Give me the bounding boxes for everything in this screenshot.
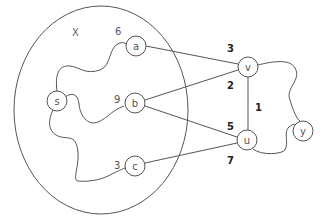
node-y: y xyxy=(293,121,313,141)
edge-a-v xyxy=(146,46,238,64)
path-s-a xyxy=(56,43,126,92)
node-b-label: b xyxy=(132,98,138,109)
edge-c-u xyxy=(145,143,237,163)
node-b: b xyxy=(125,93,145,113)
set-x-boundary xyxy=(14,6,188,214)
graph-diagram: a s b c v u y X 6 9 3 3 2 5 7 1 xyxy=(0,0,326,222)
weight-c-u: 7 xyxy=(227,155,234,166)
weight-s-b: 9 xyxy=(114,94,120,105)
node-s: s xyxy=(47,91,67,111)
weight-a-v: 3 xyxy=(227,43,234,54)
node-v-label: v xyxy=(245,62,251,73)
weight-v-u: 1 xyxy=(255,102,262,113)
node-u: u xyxy=(237,130,257,150)
node-u-label: u xyxy=(244,135,250,146)
path-v-y xyxy=(258,62,300,121)
weight-s-c: 3 xyxy=(114,160,120,171)
node-y-label: y xyxy=(300,126,306,137)
edge-b-v xyxy=(145,70,238,100)
node-a-label: a xyxy=(133,41,139,52)
edge-b-u xyxy=(145,106,237,137)
weight-b-v: 2 xyxy=(227,80,234,91)
path-u-y xyxy=(253,124,295,154)
weight-b-u: 5 xyxy=(227,121,234,132)
node-s-label: s xyxy=(54,96,59,107)
node-c: c xyxy=(125,156,145,176)
node-v: v xyxy=(238,57,258,77)
weight-s-a: 6 xyxy=(115,26,121,37)
node-c-label: c xyxy=(132,161,138,172)
set-x-label: X xyxy=(72,27,79,38)
node-a: a xyxy=(126,36,146,56)
